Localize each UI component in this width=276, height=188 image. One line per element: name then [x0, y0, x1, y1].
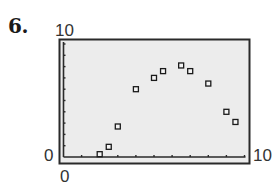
calculator-screen-frame: [60, 40, 250, 164]
data-point: [133, 87, 138, 92]
data-point: [106, 144, 111, 149]
data-point: [152, 75, 157, 80]
data-point: [161, 69, 166, 74]
scatter-plot: [0, 0, 276, 188]
data-point: [188, 69, 193, 74]
data-point: [224, 109, 229, 114]
data-point: [206, 81, 211, 86]
data-point: [97, 152, 102, 157]
data-point: [233, 119, 238, 124]
data-point: [115, 124, 120, 129]
data-point: [179, 63, 184, 68]
